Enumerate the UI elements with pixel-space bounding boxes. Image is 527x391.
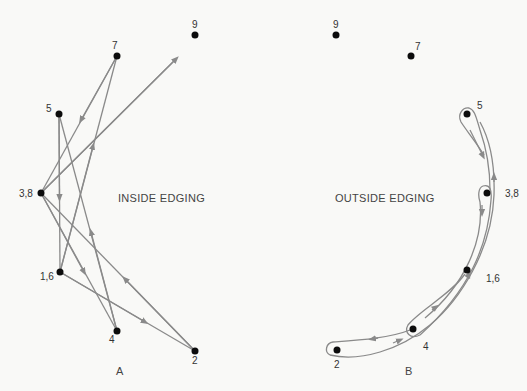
label-4: 4 [423,341,429,352]
label-9: 9 [333,19,339,30]
point-2 [334,347,341,354]
diagram-a-inside-edging: 9 7 5 3,8 1,6 4 2 INSIDE EDGING A [19,19,205,377]
label-2: 2 [192,355,198,366]
point-7 [408,53,415,60]
label-7: 7 [112,40,118,51]
label-1-6: 1,6 [40,271,54,282]
edging-diagrams: 9 7 5 3,8 1,6 4 2 INSIDE EDGING A [0,0,527,391]
caption-b: B [405,365,413,377]
curve-5 [460,108,490,190]
title-outside-edging: OUTSIDE EDGING [335,192,435,204]
point-3-8 [484,190,491,197]
point-7 [114,53,121,60]
point-9 [192,32,199,39]
label-4: 4 [109,334,115,345]
label-5: 5 [46,103,52,114]
point-3-8 [38,190,45,197]
point-1-6 [464,267,471,274]
label-3-8: 3,8 [505,188,519,199]
title-inside-edging: INSIDE EDGING [118,192,205,204]
point-4 [410,326,417,333]
point-1-6 [57,269,64,276]
caption-a: A [116,365,124,377]
label-1-6: 1,6 [486,273,500,284]
point-5 [464,111,471,118]
point-2 [192,348,199,355]
point-5 [56,111,63,118]
label-5: 5 [477,100,483,111]
diagram-b-outside-edging: 9 7 5 3,8 1,6 4 2 OUTSIDE EDGING B [326,19,519,377]
point-9 [333,32,340,39]
label-9: 9 [192,19,198,30]
label-3-8: 3,8 [19,188,33,199]
label-2: 2 [334,359,340,370]
curve-outer [330,122,494,357]
label-7: 7 [415,41,421,52]
